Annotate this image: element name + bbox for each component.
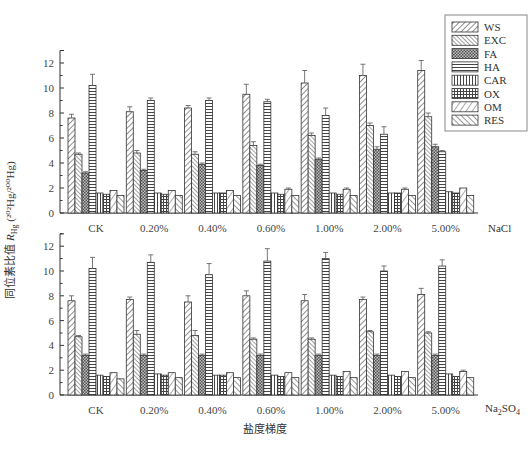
bar-om <box>285 373 292 395</box>
bar-ha <box>89 86 96 214</box>
bar-group <box>301 252 357 395</box>
bar-exc <box>425 117 432 213</box>
y-tick-label: 0 <box>49 389 55 401</box>
bar-om <box>227 373 234 395</box>
bar-group <box>126 255 182 395</box>
bar-om <box>401 371 408 395</box>
y-tick-label: 6 <box>49 315 55 327</box>
bar-car <box>329 375 336 395</box>
legend-swatch-ox <box>452 89 478 99</box>
bar-res <box>234 378 241 395</box>
legend-label: OM <box>484 101 502 113</box>
y-tick-label: 2 <box>49 364 55 376</box>
bar-exc <box>250 146 257 214</box>
bar-car <box>446 192 453 213</box>
y-tick-label: 4 <box>49 157 55 169</box>
bar-fa <box>257 355 264 395</box>
bar-ha <box>147 262 154 395</box>
bar-fa <box>373 355 380 395</box>
bar-ox <box>161 194 168 213</box>
bar-exc <box>192 335 199 395</box>
legend-swatch-fa <box>452 49 478 59</box>
bar-exc <box>133 334 140 395</box>
bar-car <box>96 375 103 395</box>
bar-car <box>329 193 336 213</box>
bar-res <box>467 378 474 395</box>
bar-fa <box>199 164 206 213</box>
legend-label: EXC <box>484 34 506 46</box>
bar-car <box>213 193 220 213</box>
bar-fa <box>257 166 264 214</box>
bar-exc <box>366 126 373 214</box>
y-tick-label: 4 <box>49 339 55 351</box>
bar-res <box>350 196 357 214</box>
bar-fa <box>373 149 380 213</box>
bar-exc <box>250 339 257 395</box>
bar-ha <box>380 134 387 213</box>
bar-ws <box>126 112 133 213</box>
bar-exc <box>308 339 315 395</box>
bar-ox <box>220 193 227 213</box>
bar-fa <box>140 355 147 395</box>
y-tick-label: 12 <box>43 57 54 69</box>
bar-exc <box>308 136 315 214</box>
bar-ox <box>336 376 343 395</box>
nacl-label: NaCl <box>488 222 511 234</box>
y-tick-label: 6 <box>49 132 55 144</box>
bar-res <box>175 378 182 395</box>
bar-om <box>460 188 467 213</box>
bar-fa <box>315 159 322 213</box>
bar-car <box>271 193 278 213</box>
y-tick-label: 12 <box>43 240 54 252</box>
bar-ha <box>322 116 329 214</box>
y-tick-label: 2 <box>49 182 55 194</box>
bar-exc <box>366 332 373 395</box>
bar-om <box>110 191 117 214</box>
bar-fa <box>82 355 89 395</box>
legend-label: FA <box>484 48 497 60</box>
bar-ws <box>359 76 366 214</box>
bar-ws <box>418 295 425 395</box>
bar-ox <box>103 194 110 213</box>
na2so4-panel: 024681012CK0.20%0.40%0.60%1.00%2.00%5.00… <box>43 234 478 416</box>
bar-group <box>243 249 299 395</box>
legend-swatch-ha <box>452 62 478 72</box>
bar-res <box>117 379 124 395</box>
bar-ox <box>394 376 401 395</box>
bar-ha <box>206 275 213 395</box>
bar-car <box>446 374 453 395</box>
bar-fa <box>140 171 147 214</box>
bar-ha <box>439 266 446 395</box>
bar-om <box>460 371 467 395</box>
y-tick-label: 8 <box>49 107 55 119</box>
bar-ws <box>185 108 192 213</box>
bar-car <box>154 374 161 395</box>
category-label: 5.00% <box>432 404 460 416</box>
legend-label: CAR <box>484 74 507 86</box>
bar-om <box>168 373 175 395</box>
legend-label: OX <box>484 88 500 100</box>
bar-ox <box>161 375 168 395</box>
y-tick-label: 0 <box>49 207 55 219</box>
bar-ws <box>126 300 133 395</box>
category-label: 0.60% <box>257 222 285 234</box>
bar-res <box>467 196 474 214</box>
bar-res <box>292 378 299 395</box>
bar-group <box>359 266 415 395</box>
category-label: 5.00% <box>432 222 460 234</box>
category-label: CK <box>88 222 103 234</box>
bar-om <box>343 371 350 395</box>
bar-ox <box>103 376 110 395</box>
bar-exc <box>425 333 432 395</box>
bar-group <box>418 260 474 395</box>
legend-swatch-ws <box>452 22 478 32</box>
category-label: 0.60% <box>257 404 285 416</box>
bar-ha <box>439 152 446 213</box>
category-label: 0.20% <box>140 404 168 416</box>
bar-group <box>68 257 124 395</box>
legend: WSEXCFAHACAROXOMRES <box>445 15 527 131</box>
bar-exc <box>75 154 82 213</box>
bar-car <box>154 193 161 213</box>
bar-fa <box>199 355 206 395</box>
bar-ha <box>380 271 387 395</box>
